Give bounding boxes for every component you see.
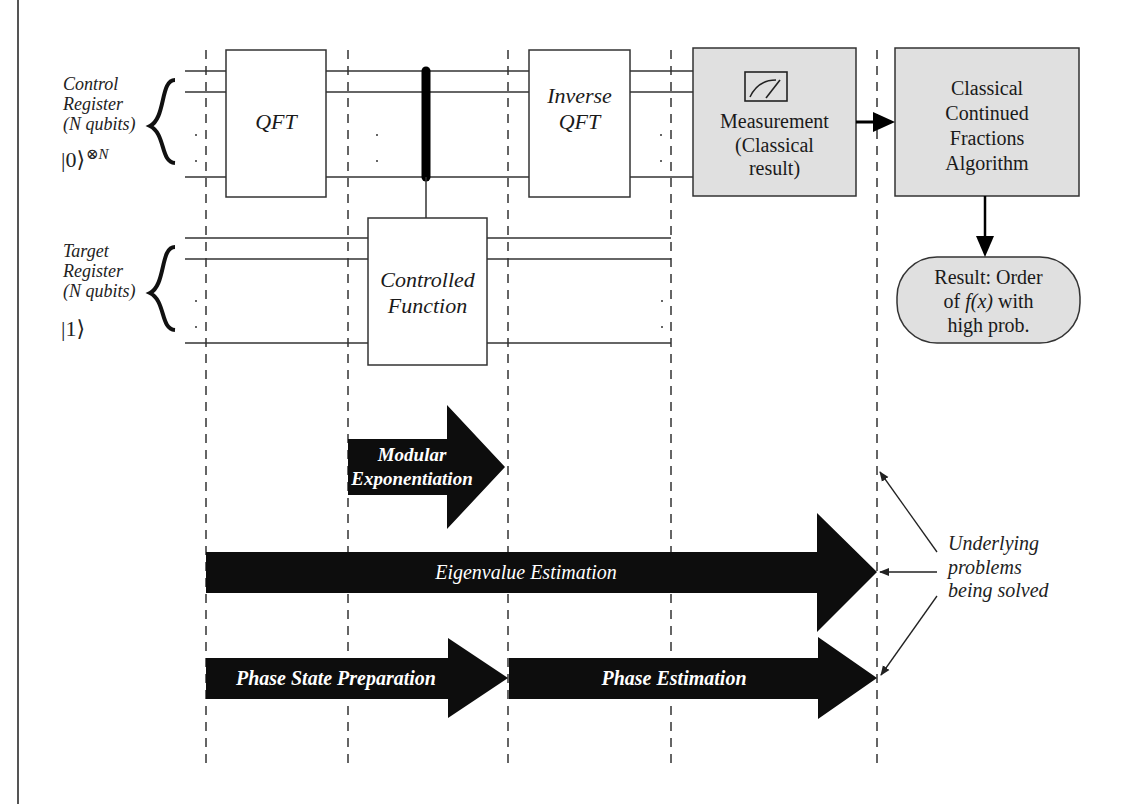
- inverse-qft-line: QFT: [529, 109, 630, 135]
- annotation-pointers: [880, 472, 937, 675]
- continued-fractions-line: Continued: [895, 101, 1079, 126]
- modular-exponentiation-label: Modular Exponentiation: [346, 443, 478, 491]
- target-register-label-line: Register: [63, 261, 136, 281]
- target-register-label-line: (N qubits): [63, 281, 136, 301]
- control-initial-state: |0⟩⊗N: [61, 146, 109, 173]
- controlled-function-label: Controlled Function: [368, 267, 487, 320]
- annotation-line: problems: [948, 556, 1049, 580]
- ellipsis-dot: [376, 134, 378, 136]
- phase-state-preparation-label: Phase State Preparation: [206, 667, 466, 689]
- result-line: Result: Order: [897, 265, 1080, 289]
- result-line: high prob.: [897, 313, 1080, 337]
- control-register-label-line: Register: [63, 94, 136, 114]
- measure-to-fractions-arrowhead: [873, 112, 895, 132]
- control-register-label-line: (N qubits): [63, 114, 136, 134]
- control-initial-ket: |0⟩: [61, 147, 85, 172]
- control-register-brace: [150, 80, 175, 163]
- result-text: of: [944, 290, 966, 312]
- continued-fractions-line: Fractions: [895, 126, 1079, 151]
- target-register-label-line: Target: [63, 241, 136, 261]
- target-initial-state: |1⟩: [61, 317, 85, 342]
- ellipsis-dot: [660, 160, 662, 162]
- annotation-line: being solved: [948, 579, 1049, 603]
- target-register-brace: [150, 247, 175, 330]
- annotation-line: Underlying: [948, 532, 1049, 556]
- continued-fractions-line: Classical: [895, 76, 1079, 101]
- inverse-qft-line: Inverse: [529, 83, 630, 109]
- ellipsis-dot: [661, 300, 663, 302]
- ellipsis-dot: [660, 134, 662, 136]
- ellipsis-dot: [195, 160, 197, 162]
- measurement-line: (Classical: [693, 134, 856, 158]
- measurement-line: Measurement: [693, 110, 856, 134]
- control-register-label: Control Register (N qubits): [63, 74, 136, 134]
- controlled-function-line: Function: [368, 293, 487, 319]
- continued-fractions-label: Classical Continued Fractions Algorithm: [895, 76, 1079, 176]
- phase-estimation-text: Phase Estimation: [601, 667, 746, 689]
- eigenvalue-estimation-text: Eigenvalue Estimation: [435, 561, 617, 583]
- inverse-qft-label: Inverse QFT: [529, 83, 630, 136]
- fractions-to-result-arrowhead: [976, 236, 994, 257]
- control-register-label-line: Control: [63, 74, 136, 94]
- phase-state-preparation-text: Phase State Preparation: [236, 667, 436, 689]
- qft-text: QFT: [255, 109, 297, 134]
- result-label: Result: Order of f(x) with high prob.: [897, 265, 1080, 337]
- phase-estimation-label: Phase Estimation: [509, 667, 839, 689]
- ellipsis-dot: [195, 326, 197, 328]
- modular-exponentiation-line: Exponentiation: [346, 467, 478, 491]
- annotation-label: Underlying problems being solved: [948, 532, 1049, 603]
- result-text: with: [993, 290, 1034, 312]
- measurement-line: result): [693, 157, 856, 181]
- eigenvalue-estimation-label: Eigenvalue Estimation: [206, 561, 846, 583]
- ellipsis-dot: [661, 326, 663, 328]
- target-register-label: Target Register (N qubits): [63, 241, 136, 301]
- continued-fractions-line: Algorithm: [895, 151, 1079, 176]
- function-symbol: f(x): [965, 290, 993, 312]
- tensor-power: ⊗N: [86, 146, 109, 162]
- target-initial-ket: |1⟩: [61, 316, 85, 341]
- ellipsis-dot: [376, 160, 378, 162]
- controlled-function-line: Controlled: [368, 267, 487, 293]
- measurement-label: Measurement (Classical result): [693, 110, 856, 181]
- qft-label: QFT: [226, 110, 326, 135]
- ellipsis-dot: [195, 300, 197, 302]
- result-line: of f(x) with: [897, 289, 1080, 313]
- ellipsis-dot: [195, 134, 197, 136]
- modular-exponentiation-line: Modular: [346, 443, 478, 467]
